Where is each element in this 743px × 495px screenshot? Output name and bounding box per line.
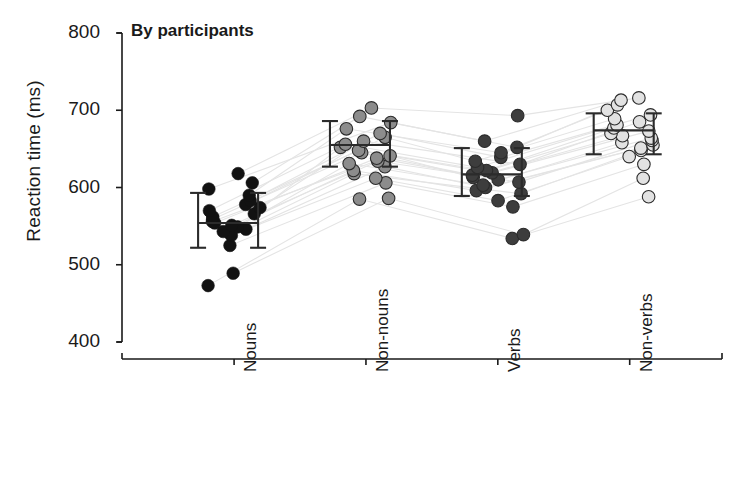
data-point (638, 158, 651, 171)
data-point (633, 92, 646, 105)
y-tick-label: 800 (42, 21, 100, 43)
y-tick-label: 500 (42, 253, 100, 275)
x-tick-label-verbs: Verbs (505, 329, 525, 372)
data-point (495, 146, 508, 159)
data-point (511, 109, 524, 122)
data-point (478, 135, 491, 148)
data-point (374, 127, 387, 140)
data-point (514, 158, 527, 171)
data-point (243, 189, 256, 202)
data-point (507, 201, 520, 214)
data-point (633, 116, 646, 129)
y-tick-label: 700 (42, 98, 100, 120)
data-point (469, 155, 482, 168)
participant-connector-lines (208, 98, 653, 286)
connector-line (209, 125, 617, 211)
axes-layer (116, 33, 722, 365)
data-point (340, 122, 353, 135)
data-point (232, 167, 245, 180)
data-point (225, 219, 238, 232)
data-point (202, 279, 215, 292)
y-tick-label: 600 (42, 176, 100, 198)
data-point (370, 152, 383, 165)
connector-line (250, 115, 650, 201)
data-point (343, 157, 356, 170)
error-bars-layer (190, 113, 662, 247)
data-point (615, 94, 628, 107)
data-point (637, 172, 650, 185)
data-point (644, 109, 657, 122)
data-point (635, 142, 648, 155)
connector-line (213, 133, 611, 219)
data-point (513, 176, 526, 189)
data-point (203, 204, 216, 217)
data-point (353, 110, 366, 123)
data-point (353, 193, 366, 206)
data-point (365, 102, 378, 115)
connector-line (208, 197, 649, 286)
chart-figure: Reaction time (ms) By participants 40050… (0, 0, 743, 495)
y-tick-label: 400 (42, 330, 100, 352)
x-axis-spine (122, 353, 722, 359)
scatter-plot-canvas (0, 0, 743, 495)
x-tick-label-non-verbs: Non-verbs (637, 294, 657, 372)
data-point (517, 228, 530, 241)
connector-line (230, 164, 644, 245)
x-tick-label-non-nouns: Non-nouns (373, 289, 393, 372)
data-point (246, 177, 259, 190)
data-point (642, 190, 655, 203)
data-point (382, 192, 395, 205)
x-tick-label-nouns: Nouns (241, 323, 261, 372)
data-point (369, 172, 382, 185)
data-point (227, 267, 240, 280)
data-point (492, 194, 505, 207)
data-point (623, 150, 636, 163)
